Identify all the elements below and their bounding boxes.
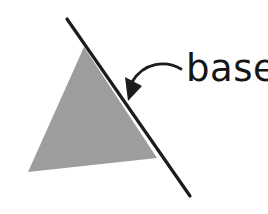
background-rect <box>0 0 268 214</box>
triangle-base-diagram: base <box>0 0 268 214</box>
figure-canvas: base <box>0 0 268 214</box>
base-label: base <box>186 47 268 90</box>
